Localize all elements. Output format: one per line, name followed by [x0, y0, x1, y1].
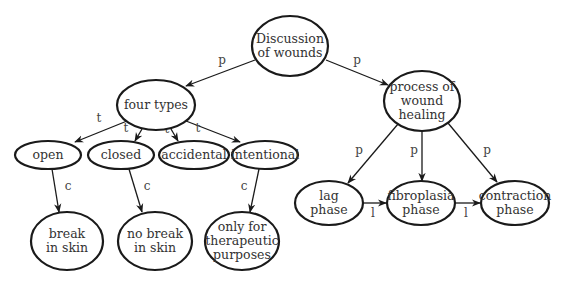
- node-accidental: accidental: [159, 141, 229, 169]
- edge-open-to-break: c: [52, 169, 72, 212]
- edge-label: p: [483, 143, 491, 157]
- node-four-types: four types: [117, 80, 195, 130]
- node-label: four types: [124, 97, 188, 112]
- nodes-layer: Discussionof woundsfour typesprocess ofw…: [15, 16, 551, 270]
- edge-label: c: [65, 179, 72, 193]
- node-label: in skin: [46, 240, 88, 255]
- edge-intentional-to-therapeutic: c: [241, 169, 259, 212]
- node-label: no break: [127, 226, 183, 241]
- node-label: therapeutic: [205, 233, 278, 248]
- node-label: healing: [399, 107, 446, 122]
- arrow-icon: [171, 129, 178, 141]
- edge-label: t: [97, 111, 102, 125]
- arrow-icon: [135, 129, 142, 141]
- node-closed: closed: [88, 141, 154, 169]
- edge-label: c: [144, 179, 151, 193]
- node-label: Discussion: [256, 31, 324, 46]
- node-label: phase: [496, 202, 533, 217]
- arrow-icon: [250, 169, 259, 212]
- node-label: closed: [101, 147, 141, 162]
- node-label: phase: [310, 202, 347, 217]
- edge-fibroplasia-to-contraction: l: [455, 203, 480, 220]
- arrow-icon: [186, 121, 240, 142]
- node-therapeutic: only fortherapeuticpurposes: [205, 212, 279, 270]
- edge-label: p: [353, 53, 361, 67]
- edge-label: p: [218, 53, 226, 67]
- node-label: lag: [319, 188, 338, 203]
- node-open: open: [15, 141, 81, 169]
- node-lag: lagphase: [295, 181, 363, 225]
- concept-map: ppttttcccpppll Discussionof woundsfour t…: [0, 0, 563, 285]
- edge-process-to-fibroplasia: p: [410, 131, 422, 181]
- arrow-icon: [129, 169, 142, 212]
- node-label: accidental: [161, 147, 226, 162]
- node-label: phase: [402, 202, 439, 217]
- edge-four_types-to-open: t: [75, 111, 127, 142]
- node-label: intentional: [231, 147, 300, 162]
- edge-label: p: [410, 143, 418, 157]
- edge-label: l: [371, 206, 375, 220]
- node-label: of wounds: [258, 45, 323, 60]
- node-label: open: [33, 147, 64, 162]
- node-contraction: contractionphase: [479, 181, 552, 225]
- node-fibroplasia: fibroplasiaphase: [387, 181, 455, 225]
- edge-process-to-lag: p: [348, 124, 398, 183]
- edge-label: p: [355, 143, 363, 157]
- node-break: breakin skin: [31, 212, 103, 270]
- edge-root-to-process: p: [326, 53, 388, 85]
- node-label: in skin: [134, 240, 176, 255]
- edge-label: l: [464, 206, 468, 220]
- node-process: process ofwoundhealing: [384, 71, 460, 131]
- edge-label: c: [241, 179, 248, 193]
- edge-label: t: [196, 121, 201, 135]
- edge-process-to-contraction: p: [448, 123, 497, 182]
- node-label: wound: [401, 93, 443, 108]
- edge-root-to-four_types: p: [186, 53, 255, 86]
- node-label: fibroplasia: [387, 188, 455, 203]
- node-label: process of: [390, 79, 456, 94]
- edge-four_types-to-intentional: t: [186, 121, 240, 142]
- node-root: Discussionof wounds: [252, 16, 328, 76]
- edge-closed-to-no_break: c: [129, 169, 151, 212]
- node-no-break: no breakin skin: [118, 212, 192, 270]
- node-label: only for: [218, 219, 267, 234]
- node-label: break: [49, 226, 86, 241]
- node-intentional: intentional: [231, 141, 300, 169]
- node-label: contraction: [479, 188, 552, 203]
- edge-lag-to-fibroplasia: l: [363, 203, 386, 220]
- node-label: purposes: [213, 247, 271, 262]
- arrow-icon: [52, 169, 59, 212]
